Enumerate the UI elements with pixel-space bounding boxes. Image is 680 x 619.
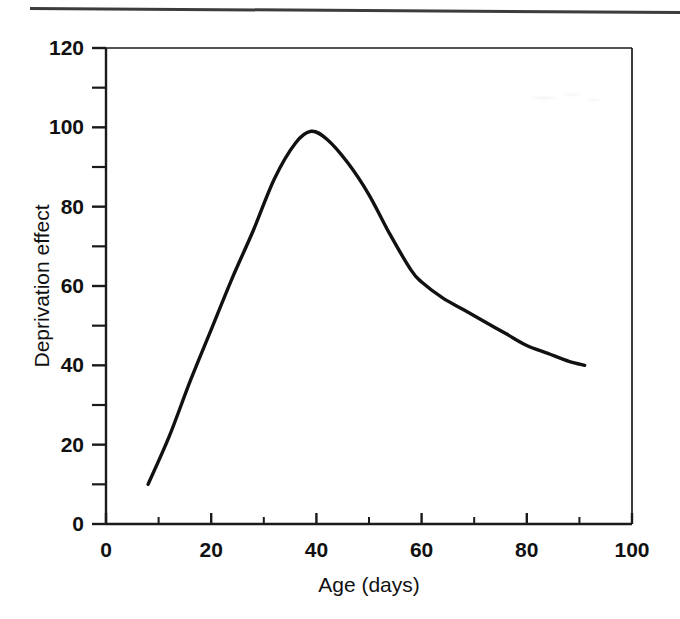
data-series-curve [148,131,585,484]
x-tick-label: 0 [100,538,112,562]
x-tick-label: 80 [515,538,538,562]
x-tick-label: 20 [200,538,223,562]
y-tick-label: 20 [0,433,84,457]
chart-plot-area [0,0,680,619]
y-tick-label: 120 [0,36,84,60]
y-axis-title: Deprivation effect [30,204,54,367]
y-axis-major-ticks [92,48,106,524]
axis-frame [106,48,632,524]
x-tick-label: 100 [614,538,649,562]
y-tick-label: 100 [0,115,84,139]
x-tick-label: 60 [410,538,433,562]
y-tick-label: 0 [0,512,84,536]
figure-container: 020406080100120 020406080100 Age (days) … [0,0,680,619]
x-tick-label: 40 [305,538,328,562]
x-axis-title: Age (days) [318,573,420,597]
